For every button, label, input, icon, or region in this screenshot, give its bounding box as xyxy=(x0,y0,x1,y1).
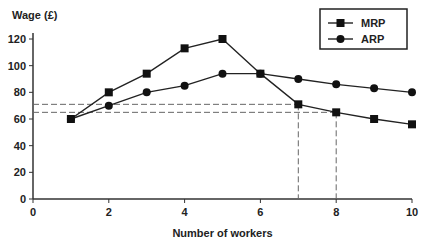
data-point-circle xyxy=(219,70,227,78)
y-tick-label: 20 xyxy=(14,166,26,178)
y-tick-label: 80 xyxy=(14,86,26,98)
square-marker-icon xyxy=(337,19,345,27)
legend-label-mrp: MRP xyxy=(361,17,385,29)
data-point-square xyxy=(408,120,416,128)
data-point-square xyxy=(143,70,151,78)
data-point-square xyxy=(294,100,302,108)
x-tick-label: 4 xyxy=(182,206,189,218)
data-point-circle xyxy=(105,102,113,110)
y-tick-label: 60 xyxy=(14,113,26,125)
x-tick-label: 10 xyxy=(406,206,418,218)
x-axis-label: Number of workers xyxy=(172,227,272,239)
data-point-circle xyxy=(370,84,378,92)
y-tick-label: 100 xyxy=(8,60,26,72)
series-line-mrp xyxy=(71,39,412,124)
wage-chart: 0204060801001200246810Wage (£)Number of … xyxy=(0,0,426,243)
y-tick-label: 120 xyxy=(8,33,26,45)
y-tick-label: 40 xyxy=(14,140,26,152)
data-point-circle xyxy=(181,82,189,90)
data-point-circle xyxy=(143,88,151,96)
x-tick-label: 8 xyxy=(333,206,339,218)
legend: MRPARP xyxy=(320,9,407,49)
data-point-circle xyxy=(408,88,416,96)
data-point-square xyxy=(181,44,189,52)
circle-marker-icon xyxy=(337,35,345,43)
y-tick-label: 0 xyxy=(20,193,26,205)
data-point-square xyxy=(332,108,340,116)
data-point-square xyxy=(219,35,227,43)
x-tick-label: 0 xyxy=(30,206,36,218)
data-point-circle xyxy=(332,80,340,88)
x-tick-label: 6 xyxy=(257,206,263,218)
x-tick-label: 2 xyxy=(106,206,112,218)
data-point-circle xyxy=(256,70,264,78)
data-point-square xyxy=(370,115,378,123)
data-point-square xyxy=(105,88,113,96)
legend-label-arp: ARP xyxy=(361,33,384,45)
data-point-circle xyxy=(67,115,75,123)
data-point-circle xyxy=(294,75,302,83)
y-axis-label: Wage (£) xyxy=(12,9,58,21)
